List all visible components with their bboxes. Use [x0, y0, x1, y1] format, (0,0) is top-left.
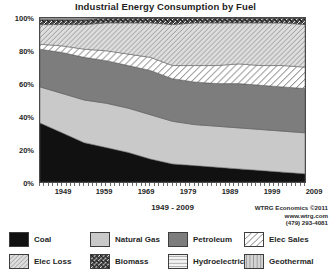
- x-axis-label: 1979: [168, 187, 208, 196]
- x-axis-tick: [136, 183, 137, 186]
- x-axis-tick: [141, 183, 142, 186]
- x-axis-tick: [149, 183, 150, 186]
- x-axis-tick: [127, 183, 128, 186]
- y-axis-label: 20%: [0, 146, 34, 155]
- x-axis-tick: [229, 183, 230, 186]
- x-axis-tick: [202, 183, 203, 186]
- y-axis-label: 0%: [0, 179, 34, 188]
- x-axis-tick: [114, 183, 115, 186]
- legend-item-geothermal: Geothermal: [244, 254, 313, 269]
- x-axis-label: 1959: [84, 187, 124, 196]
- chart-legend: Coal: [4, 232, 331, 276]
- x-axis-tick: [233, 183, 234, 186]
- plot-area: [39, 17, 306, 183]
- x-axis-tick: [300, 183, 301, 186]
- x-axis-tick: [220, 183, 221, 186]
- x-axis-tick: [43, 183, 44, 186]
- credit-line-3: (479) 293-4081: [188, 219, 328, 227]
- x-axis-tick: [48, 183, 49, 186]
- legend-item-natural-gas: Natural Gas: [90, 232, 160, 247]
- x-axis-tick: [180, 183, 181, 186]
- x-axis-tick: [39, 183, 40, 186]
- x-axis-tick: [88, 183, 89, 186]
- x-axis-label: 1999: [252, 187, 292, 196]
- legend-label: Geothermal: [269, 257, 313, 266]
- credit-line-1: WTRG Economics ©2011: [188, 204, 328, 212]
- x-axis-label: 1989: [210, 187, 250, 196]
- x-axis-tick: [216, 183, 217, 186]
- x-axis-tick: [70, 183, 71, 186]
- x-axis-tick: [66, 183, 67, 186]
- chart-title: Industrial Energy Consumption by Fuel: [0, 1, 331, 12]
- legend-item-elec-loss: Elec Loss: [9, 254, 71, 269]
- legend-item-biomass: Biomass: [90, 254, 148, 269]
- x-axis-tick: [247, 183, 248, 186]
- x-axis-tick: [211, 183, 212, 186]
- x-axis-tick: [57, 183, 58, 186]
- x-axis-tick: [225, 183, 226, 186]
- legend-swatch-solid-light-gray: [90, 232, 110, 247]
- x-axis-tick: [295, 183, 296, 186]
- x-axis-tick: [79, 183, 80, 186]
- x-axis-tick: [251, 183, 252, 186]
- legend-item-elec-sales: Elec Sales: [244, 232, 309, 247]
- x-axis-tick: [291, 183, 292, 186]
- x-axis-tick: [273, 183, 274, 186]
- x-axis-tick: [198, 183, 199, 186]
- legend-swatch-dense-crosshatch: [90, 254, 110, 269]
- x-axis-tick: [101, 183, 102, 186]
- credit-line-2: www.wtrg.com: [188, 212, 328, 220]
- x-axis-tick: [123, 183, 124, 186]
- x-axis-tick: [172, 183, 173, 186]
- legend-item-hydroelectric: Hydroelectric: [168, 254, 244, 269]
- credit-block: WTRG Economics ©2011 www.wtrg.com (479) …: [188, 204, 328, 227]
- x-axis-tick: [260, 183, 261, 186]
- stacked-area-series: [40, 18, 305, 182]
- x-axis-tick: [132, 183, 133, 186]
- x-axis-tick: [242, 183, 243, 186]
- legend-swatch-solid-mid-gray: [168, 232, 188, 247]
- x-axis-tick: [189, 183, 190, 186]
- legend-label: Natural Gas: [115, 235, 160, 244]
- x-axis-tick: [158, 183, 159, 186]
- legend-swatch-light-diagonal: [9, 254, 29, 269]
- y-axis-label: 80%: [0, 47, 34, 56]
- x-axis-tick: [286, 183, 287, 186]
- x-axis-tick: [176, 183, 177, 186]
- x-axis-label: 2009: [294, 187, 331, 196]
- x-axis-tick: [278, 183, 279, 186]
- legend-label: Biomass: [115, 257, 148, 266]
- legend-label: Hydroelectric: [193, 257, 244, 266]
- chart-screenshot: Industrial Energy Consumption by Fuel 10…: [0, 0, 331, 278]
- y-axis-label: 60%: [0, 80, 34, 89]
- legend-label: Petroleum: [193, 235, 232, 244]
- x-axis-tick: [96, 183, 97, 186]
- x-axis-tick: [255, 183, 256, 186]
- legend-row-2: Elec Loss: [4, 254, 331, 276]
- x-axis-tick: [194, 183, 195, 186]
- legend-item-coal: Coal: [9, 232, 51, 247]
- legend-row-1: Coal: [4, 232, 331, 254]
- legend-label: Elec Loss: [34, 257, 71, 266]
- x-axis-tick: [304, 183, 305, 186]
- x-axis-tick: [110, 183, 111, 186]
- x-axis-tick: [238, 183, 239, 186]
- x-axis-tick: [92, 183, 93, 186]
- legend-swatch-horizontal-lines: [168, 254, 188, 269]
- x-axis-tick: [167, 183, 168, 186]
- x-axis-tick: [52, 183, 53, 186]
- x-axis-tick: [185, 183, 186, 186]
- x-axis-tick: [105, 183, 106, 186]
- legend-item-petroleum: Petroleum: [168, 232, 232, 247]
- legend-label: Elec Sales: [269, 235, 309, 244]
- x-axis-tick: [61, 183, 62, 186]
- x-axis-tick: [264, 183, 265, 186]
- x-axis-tick: [119, 183, 120, 186]
- x-axis-tick: [269, 183, 270, 186]
- x-axis-tick: [74, 183, 75, 186]
- x-axis-label: 1949: [43, 187, 83, 196]
- legend-swatch-vertical-lines: [244, 254, 264, 269]
- legend-label: Coal: [34, 235, 51, 244]
- x-axis-tick: [163, 183, 164, 186]
- y-axis-label: 100%: [0, 14, 34, 23]
